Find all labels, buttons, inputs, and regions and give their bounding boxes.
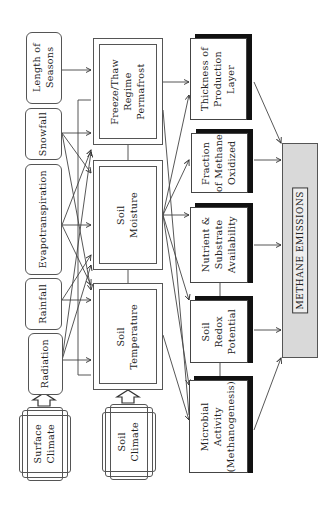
node-rainfall: Rainfall [25,278,62,330]
node-microbial: Microbial Activity (Methanogenesis) [189,380,248,473]
node-label: Radiation [39,339,52,388]
node-thickness: Thickness of Production Layer [190,38,247,120]
node-freeze-thaw: Freeze/Thaw Regime Permafrost [93,38,163,145]
node-label: Snowfall [37,112,50,156]
node-methane-emissions: METHANE EMISSIONS [282,143,318,358]
node-snowfall: Snowfall [25,108,62,160]
node-label: Soil Moisture [115,192,141,238]
node-soil-temperature: Soil Temperature [93,283,163,390]
node-surface-climate: Surface Climate [22,410,68,478]
node-label: Microbial Activity (Methanogenesis) [199,381,237,472]
node-radiation: Radiation [28,333,63,395]
node-label: Soil Temperature [115,304,141,370]
node-nutrient: Nutrient & Substrate Availability [190,207,248,283]
node-label: Surface Climate [32,424,58,464]
node-redox: Soil Redox Potential [190,300,248,363]
node-length-of-seasons: Length of Seasons [26,32,62,104]
node-soil-moisture: Soil Moisture [93,160,163,270]
node-label: Evapotranspiration [37,170,50,268]
soil-climate-arrow [117,390,139,403]
node-fraction-oxidized: Fraction of Methane Oxidized [191,133,248,193]
node-label: Nutrient & Substrate Availability [200,216,238,273]
node-label: Soil Climate [116,422,142,462]
node-evapotranspiration: Evapotranspiration [25,164,62,275]
node-label: Soil Redox Potential [200,309,238,355]
node-label: Rainfall [37,284,50,324]
node-label: Fraction of Methane Oxidized [200,134,238,192]
node-soil-climate: Soil Climate [105,407,153,477]
node-label: Thickness of Production Layer [199,47,237,111]
node-label: Length of Seasons [31,43,57,92]
methane-emissions-label: METHANE EMISSIONS [292,187,308,313]
node-label: Freeze/Thaw Regime Permafrost [109,59,147,125]
